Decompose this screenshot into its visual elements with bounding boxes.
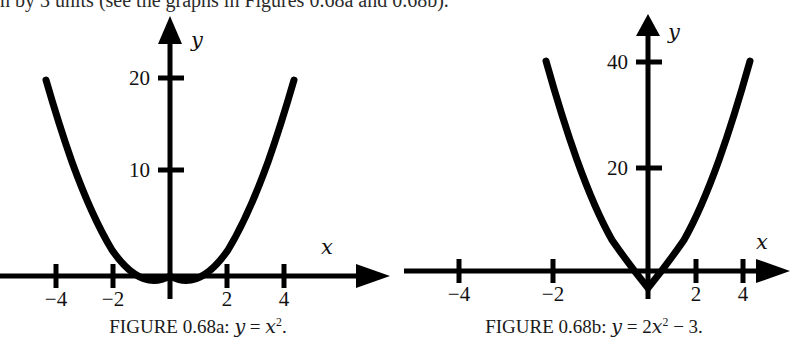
x-tick-label-neg4: −4 [45, 287, 68, 311]
figure-0-68b-caption-prefix: FIGURE 0.68b: [485, 316, 606, 337]
x-axis-b [404, 259, 790, 283]
figure-0-68a-caption-prefix: FIGURE 0.68a: [109, 316, 229, 337]
figure-0-68a-plot: −4 −2 2 4 10 20 x y [0, 14, 396, 319]
figure-0-68b-equation-lhs: y [611, 315, 622, 337]
x-tick-label-4: 4 [279, 287, 290, 311]
figure-0-68b-caption: FIGURE 0.68b: y = 2x2 − 3. [396, 314, 792, 339]
x-axis-label-a: x [321, 235, 333, 259]
y-axis-label-b: y [667, 20, 681, 44]
figure-0-68a-equation-base: x [265, 315, 276, 337]
figure-0-68b-equation-eq: = [627, 316, 638, 337]
y-axis-b [636, 14, 660, 299]
figure-0-68b-equation-coefficient: 2 [642, 316, 652, 337]
x-axis-label-b: x [756, 230, 768, 254]
x-tick-label-2-b: 2 [691, 282, 702, 306]
x-tick-label-neg2-b: −2 [542, 282, 564, 306]
figure-0-68b-equation-exponent: 2 [662, 316, 668, 329]
figure-0-68a-equation-eq: = [250, 316, 261, 337]
figure-0-68b: −4 −2 2 4 20 40 x y FIGURE 0.68b: y = 2x… [396, 14, 792, 348]
y-tick-label-20-b: 20 [607, 156, 628, 180]
figure-0-68b-equation-tail: − 3. [673, 316, 703, 337]
figure-0-68a-equation-tail: . [282, 316, 287, 337]
y-axis-label-a: y [190, 28, 204, 52]
figure-0-68a-caption: FIGURE 0.68a: y = x2. [0, 314, 396, 339]
body-text-line: n by 3 units (see the graphs in Figures … [0, 0, 792, 13]
x-tick-label-neg4-b: −4 [448, 282, 471, 306]
y-tick-label-20: 20 [129, 66, 150, 90]
y-axis-a [158, 16, 182, 299]
figure-0-68b-plot: −4 −2 2 4 20 40 x y [396, 14, 792, 319]
figure-0-68b-equation-base: x [652, 315, 663, 337]
x-tick-label-neg2: −2 [102, 287, 124, 311]
figure-0-68a: −4 −2 2 4 10 20 x y FIGURE 0.68a: y = x2… [0, 14, 396, 348]
figure-0-68a-equation-lhs: y [234, 315, 245, 337]
x-tick-label-2: 2 [222, 287, 233, 311]
y-tick-label-40-b: 40 [607, 50, 628, 74]
body-text-line-content: n by 3 units (see the graphs in Figures … [0, 0, 792, 13]
y-tick-label-10: 10 [129, 158, 150, 182]
x-tick-label-4-b: 4 [738, 282, 749, 306]
